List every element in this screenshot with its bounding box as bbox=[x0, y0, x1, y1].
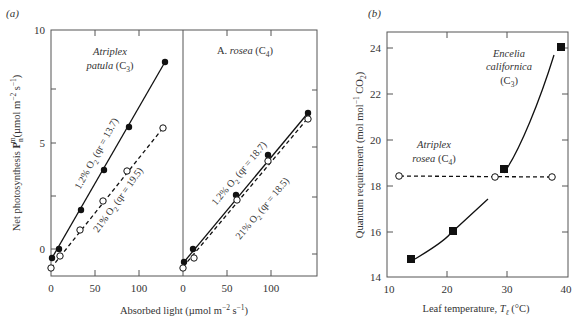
a-xtick-50-left: 50 bbox=[90, 282, 102, 294]
b-encelia-line1: Encelia bbox=[492, 48, 525, 59]
b-atriplex-line1: Atriplex bbox=[416, 139, 451, 150]
a-ylabel: Net photosynthesis Pnm(µmol m−2 s−1) bbox=[8, 74, 25, 231]
b-ytick-14: 14 bbox=[370, 271, 382, 283]
b-xtick-30: 30 bbox=[502, 283, 514, 295]
b-atriplex-points bbox=[396, 173, 556, 181]
b-ytick-22: 22 bbox=[370, 88, 381, 100]
b-encelia-line3: (C3) bbox=[500, 75, 518, 89]
b-xtick-40: 40 bbox=[561, 283, 573, 295]
panel-a-label: (a) bbox=[6, 7, 19, 20]
panel-a: 0 5 10 0 50 100 0 50 100 Absorbed light … bbox=[8, 24, 317, 317]
b-xtick-20: 20 bbox=[442, 283, 454, 295]
b-ylabel: Quantum requirement (mol mol−1 CO2) bbox=[352, 71, 368, 238]
figure: (a) (b) 0 5 10 bbox=[0, 0, 577, 322]
b-atriplex-line2: rosea (C4) bbox=[412, 153, 456, 167]
a-xtick-0-right: 0 bbox=[180, 282, 186, 294]
a-right-title: A. rosea (C4) bbox=[217, 45, 274, 59]
a-ytick-0: 0 bbox=[40, 243, 46, 255]
b-ytick-18: 18 bbox=[370, 180, 382, 192]
b-encelia-line2: californica bbox=[486, 61, 532, 72]
a-xtick-100-left: 100 bbox=[131, 282, 148, 294]
b-xtick-10: 10 bbox=[384, 283, 396, 295]
a-left-solid-line bbox=[52, 62, 165, 258]
a-right-dashed-label: 21% O2 (qr = 18.5) bbox=[233, 175, 293, 243]
a-xtick-50-right: 50 bbox=[222, 282, 234, 294]
b-xlabel: Leaf temperature, Tℓ (°C) bbox=[422, 303, 530, 317]
a-left-title-line1: Atriplex bbox=[92, 46, 127, 57]
panel-b-label: (b) bbox=[368, 7, 381, 20]
a-xtick-0-left: 0 bbox=[48, 282, 54, 294]
panel-b: 24 22 20 18 16 14 10 20 30 40 Leaf tempe… bbox=[352, 32, 572, 317]
a-ytick-5: 5 bbox=[40, 137, 46, 149]
a-left-solid-label: 1.2% O2 (qr = 13.7) bbox=[72, 116, 123, 192]
a-right-open-points bbox=[180, 116, 311, 271]
a-left-title-line2: patula (C3) bbox=[85, 60, 134, 74]
a-xlabel: Absorbed light (µmol m−2 s−1) bbox=[120, 303, 249, 317]
a-right-dashed-line bbox=[183, 118, 308, 267]
a-right-solid-line bbox=[184, 113, 308, 262]
b-ytick-20: 20 bbox=[370, 134, 382, 146]
a-left-dashed-line bbox=[51, 128, 163, 268]
b-ytick-16: 16 bbox=[370, 226, 382, 238]
b-ytick-24: 24 bbox=[370, 42, 382, 54]
a-ytick-10: 10 bbox=[34, 24, 46, 36]
b-atriplex-dashed-line bbox=[400, 176, 550, 177]
a-xtick-100-right: 100 bbox=[263, 282, 280, 294]
